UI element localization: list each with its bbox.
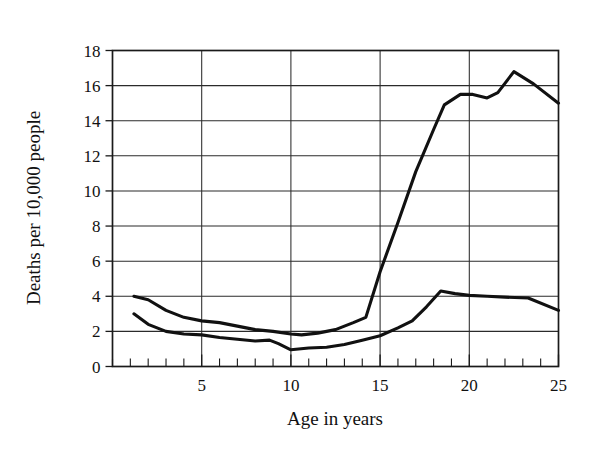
y-tick-label: 2 <box>92 322 101 341</box>
y-tick-label: 4 <box>92 287 101 306</box>
y-tick-label: 14 <box>84 112 102 131</box>
y-tick-label: 6 <box>92 252 101 271</box>
y-tick-label: 12 <box>84 147 101 166</box>
x-tick-label: 15 <box>372 376 389 395</box>
chart-container: 024681012141618 510152025 Deaths per 10,… <box>0 0 595 459</box>
y-tick-label: 8 <box>92 217 101 236</box>
x-tick-label: 25 <box>550 376 567 395</box>
y-tick-label: 0 <box>92 358 101 377</box>
x-tick-label: 10 <box>282 376 299 395</box>
y-axis-title: Deaths per 10,000 people <box>23 111 44 305</box>
x-tick-label: 20 <box>461 376 478 395</box>
line-chart: 024681012141618 510152025 Deaths per 10,… <box>0 0 595 459</box>
x-axis-title: Age in years <box>287 408 383 429</box>
y-tick-label: 18 <box>84 42 101 61</box>
y-tick-label: 16 <box>84 77 101 96</box>
y-tick-label: 10 <box>84 182 101 201</box>
x-tick-label: 5 <box>197 376 206 395</box>
